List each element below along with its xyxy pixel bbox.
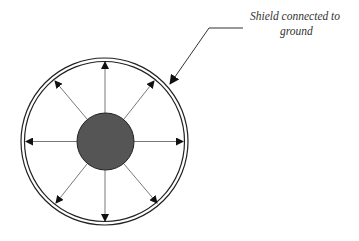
field-arrow-up-right — [124, 81, 154, 119]
annotation-leader — [170, 28, 243, 84]
field-arrow-up-left — [55, 81, 87, 119]
annotation-label-line2: ground — [280, 24, 313, 38]
annotation-label-line1: Shield connected to — [250, 9, 340, 23]
center-conductor — [77, 113, 134, 170]
field-arrow-down-left — [56, 164, 87, 203]
diagram-canvas: Shield connected to ground — [0, 0, 359, 241]
field-arrow-down-right — [124, 164, 157, 203]
